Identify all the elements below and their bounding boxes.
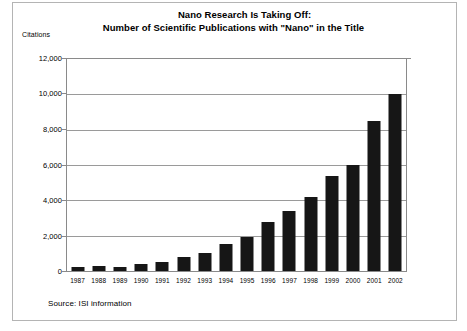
page-border-right bbox=[456, 2, 457, 321]
x-axis-label-1988: 1988 bbox=[91, 277, 106, 284]
bar-1987[interactable] bbox=[71, 267, 84, 271]
y-axis-caption: Citations bbox=[22, 31, 50, 38]
chart-title-line-2: Number of Scientific Publications with "… bbox=[0, 21, 467, 34]
y-axis-tick-label: 0 bbox=[18, 267, 62, 276]
y-axis-tick-label: 10,000 bbox=[18, 89, 62, 98]
bar-1991[interactable] bbox=[156, 262, 169, 271]
bar-1992[interactable] bbox=[177, 257, 190, 271]
x-axis-label-1997: 1997 bbox=[282, 277, 297, 284]
y-axis-tick bbox=[62, 93, 66, 94]
y-axis-tick bbox=[62, 200, 66, 201]
bar-slot bbox=[237, 59, 258, 271]
x-axis-label-1990: 1990 bbox=[134, 277, 149, 284]
bar-1999[interactable] bbox=[325, 176, 338, 271]
x-axis-label-1999: 1999 bbox=[324, 277, 339, 284]
bar-2002[interactable] bbox=[389, 94, 402, 271]
bar-slot bbox=[109, 59, 130, 271]
x-axis-label-2000: 2000 bbox=[346, 277, 361, 284]
top-rule-extension bbox=[407, 58, 411, 59]
y-axis-tick-label: 12,000 bbox=[18, 54, 62, 63]
bar-1993[interactable] bbox=[198, 253, 211, 271]
x-axis-label-2002: 2002 bbox=[388, 277, 403, 284]
bar-slot bbox=[131, 59, 152, 271]
page-border-bottom bbox=[12, 320, 457, 321]
x-axis-label-1993: 1993 bbox=[197, 277, 212, 284]
x-axis-label-1996: 1996 bbox=[261, 277, 276, 284]
x-axis-labels-group: 1987198819891990199119921993199419951996… bbox=[67, 277, 406, 289]
bar-1988[interactable] bbox=[92, 266, 105, 271]
bars-group bbox=[67, 59, 406, 271]
y-axis-tick-label: 4,000 bbox=[18, 196, 62, 205]
y-axis-tick bbox=[62, 236, 66, 237]
y-axis-tick bbox=[62, 129, 66, 130]
bar-1994[interactable] bbox=[219, 244, 232, 271]
chart-title-line-1: Nano Research Is Taking Off: bbox=[0, 8, 467, 21]
bar-1989[interactable] bbox=[113, 267, 126, 271]
source-note: Source: ISI information bbox=[48, 299, 132, 308]
bar-1997[interactable] bbox=[283, 211, 296, 271]
bar-slot bbox=[173, 59, 194, 271]
chart-title: Nano Research Is Taking Off: Number of S… bbox=[0, 8, 467, 34]
bar-slot bbox=[342, 59, 363, 271]
chart-page: Nano Research Is Taking Off: Number of S… bbox=[0, 0, 467, 331]
bar-slot bbox=[279, 59, 300, 271]
y-axis-tick bbox=[62, 271, 66, 272]
x-axis-label-1991: 1991 bbox=[155, 277, 170, 284]
bar-slot bbox=[194, 59, 215, 271]
y-axis-tick-label: 6,000 bbox=[18, 161, 62, 170]
bar-slot bbox=[364, 59, 385, 271]
bar-slot bbox=[67, 59, 88, 271]
bar-2001[interactable] bbox=[368, 121, 381, 271]
x-axis-label-1992: 1992 bbox=[176, 277, 191, 284]
x-axis-label-1987: 1987 bbox=[70, 277, 85, 284]
y-axis-tick bbox=[62, 58, 66, 59]
x-axis-label-1994: 1994 bbox=[218, 277, 233, 284]
y-axis-tick-label: 2,000 bbox=[18, 232, 62, 241]
bar-slot bbox=[215, 59, 236, 271]
bar-1990[interactable] bbox=[135, 264, 148, 271]
page-border-left bbox=[12, 2, 13, 321]
y-axis-tick-label: 8,000 bbox=[18, 125, 62, 134]
bar-1998[interactable] bbox=[304, 197, 317, 271]
y-axis-tick bbox=[62, 165, 66, 166]
bar-slot bbox=[88, 59, 109, 271]
x-axis-label-2001: 2001 bbox=[367, 277, 382, 284]
bar-slot bbox=[258, 59, 279, 271]
bar-2000[interactable] bbox=[347, 165, 360, 271]
bar-1996[interactable] bbox=[262, 222, 275, 271]
x-axis-label-1989: 1989 bbox=[113, 277, 128, 284]
bar-slot bbox=[385, 59, 406, 271]
x-axis-label-1998: 1998 bbox=[303, 277, 318, 284]
page-border-top bbox=[12, 2, 457, 3]
x-axis-label-1995: 1995 bbox=[240, 277, 255, 284]
bar-slot bbox=[300, 59, 321, 271]
bar-1995[interactable] bbox=[241, 237, 254, 271]
bar-slot bbox=[321, 59, 342, 271]
bar-slot bbox=[152, 59, 173, 271]
